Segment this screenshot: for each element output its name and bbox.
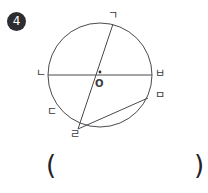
geometry-svg [0,0,208,150]
problem-figure-page: 4 ㄱ ㄴ ㅂ ㅁ ㄷ ㄹ O ( ) [0,0,208,193]
answer-open-paren: ( [46,148,56,182]
point-label-m: ㅁ [155,90,165,101]
geometry-figure: ㄱ ㄴ ㅂ ㅁ ㄷ ㄹ O [0,0,208,150]
answer-close-paren: ) [194,148,204,182]
point-label-b: ㅂ [155,68,165,79]
point-label-g: ㄱ [108,10,118,21]
answer-blank-row[interactable]: ( ) [0,148,208,188]
center-dot [99,71,102,74]
point-label-d: ㄷ [47,106,57,117]
segment-chord-g-r [78,24,113,129]
segment-chord-r-m [78,98,148,129]
center-label-o: O [95,79,104,89]
point-label-n: ㄴ [36,68,46,79]
point-label-r: ㄹ [70,129,80,140]
